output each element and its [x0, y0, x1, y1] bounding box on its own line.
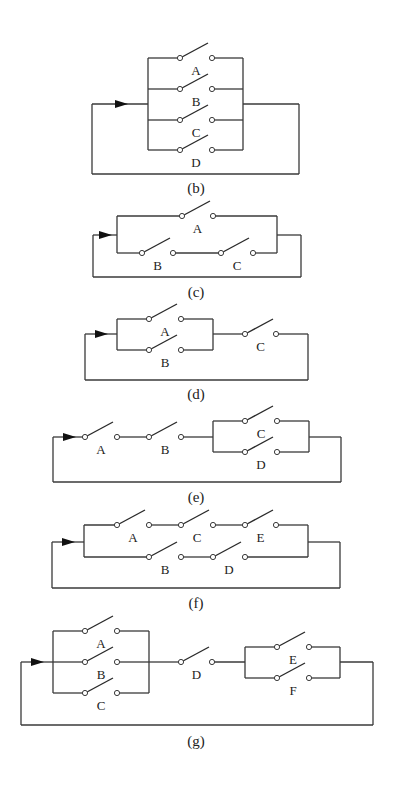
circuit-g: ABCDEF(g) [21, 616, 373, 750]
switch-c: C [242, 319, 278, 354]
terminal-icon [306, 644, 311, 649]
terminal-icon [274, 418, 279, 423]
terminal-icon [178, 434, 183, 439]
switch-blade [247, 319, 273, 333]
switch-label: C [233, 258, 242, 273]
switch-label: D [192, 667, 201, 682]
switch-label: D [191, 155, 200, 170]
switch-label: B [153, 258, 162, 273]
switch-blade [184, 201, 210, 215]
terminal-icon [146, 434, 151, 439]
switch-label: A [96, 442, 106, 457]
terminal-icon [177, 55, 182, 60]
switch-blade [279, 632, 305, 646]
switch-label: A [128, 530, 138, 545]
switch-d: D [177, 135, 214, 170]
switch-a: A [82, 616, 119, 651]
switch-b: B [146, 542, 183, 577]
switch-a: A [177, 43, 214, 78]
switch-blade [151, 304, 177, 318]
circuit-b: ABCD(b) [92, 43, 299, 197]
terminal-icon [274, 644, 279, 649]
terminal-icon [306, 675, 311, 680]
caption-b: (b) [187, 180, 205, 197]
terminal-icon [82, 628, 87, 633]
switch-label: C [257, 426, 266, 441]
switch-blade [151, 542, 177, 556]
switch-label: E [257, 530, 265, 545]
switch-b: B [146, 335, 183, 370]
switch-e: E [242, 510, 278, 545]
switch-a: A [114, 510, 151, 545]
switch-label: B [161, 355, 170, 370]
switch-blade [119, 510, 145, 524]
switch-label: A [193, 221, 203, 236]
switch-label: C [193, 530, 202, 545]
terminal-icon [178, 347, 183, 352]
circuit-e: ABCD(e) [53, 406, 341, 506]
switch-label: A [191, 63, 201, 78]
switch-label: B [97, 667, 106, 682]
circuit-d: ABC(d) [85, 304, 308, 403]
switch-b: B [177, 74, 214, 109]
switch-label: D [256, 457, 265, 472]
terminal-icon [209, 55, 214, 60]
terminal-icon [242, 418, 247, 423]
terminal-icon [274, 449, 279, 454]
switch-label: C [192, 125, 201, 140]
terminal-icon [177, 147, 182, 152]
switch-c: C [242, 406, 279, 441]
switch-blade [182, 43, 208, 57]
terminal-icon [177, 117, 182, 122]
terminal-icon [273, 331, 278, 336]
terminal-icon [273, 522, 278, 527]
switch-blade [87, 422, 113, 436]
switch-label: B [161, 562, 170, 577]
terminal-icon [210, 213, 215, 218]
terminal-icon [82, 434, 87, 439]
terminal-icon [178, 316, 183, 321]
terminal-icon [242, 331, 247, 336]
switch-label: C [97, 698, 106, 713]
terminal-icon [146, 347, 151, 352]
terminal-icon [242, 554, 247, 559]
switch-f: F [274, 663, 311, 698]
terminal-icon [178, 522, 183, 527]
terminal-icon [178, 659, 183, 664]
switch-label: F [289, 683, 296, 698]
terminal-icon [114, 690, 119, 695]
circuit-f: ACEBD(f) [52, 510, 340, 612]
switch-a: A [146, 304, 183, 339]
switch-a: A [179, 201, 215, 236]
switch-c: C [82, 678, 119, 713]
terminal-icon [218, 250, 223, 255]
terminal-icon [209, 86, 214, 91]
current-arrow-icon [99, 231, 112, 239]
switch-d: D [210, 542, 247, 577]
switch-c: C [218, 238, 255, 273]
switch-blade [183, 647, 209, 661]
current-arrow-icon [62, 538, 75, 546]
switch-blade [87, 616, 113, 630]
switch-label: B [192, 94, 201, 109]
terminal-icon [114, 522, 119, 527]
switch-blade [151, 422, 177, 436]
switch-label: A [96, 636, 106, 651]
switch-e: E [274, 632, 311, 667]
terminal-icon [210, 522, 215, 527]
caption-e: (e) [188, 489, 205, 506]
terminal-icon [209, 147, 214, 152]
switch-label: D [224, 562, 233, 577]
switch-label: E [289, 652, 297, 667]
switch-a: A [82, 422, 119, 457]
switch-b: B [146, 422, 183, 457]
circuit-figure: ABCD(b)ABC(c)ABC(d)ABCD(e)ACEBD(f)ABCDEF… [0, 0, 397, 789]
caption-g: (g) [187, 733, 205, 750]
terminal-icon [177, 86, 182, 91]
terminal-icon [250, 250, 255, 255]
caption-d: (d) [187, 386, 205, 403]
terminal-icon [274, 675, 279, 680]
switch-b: B [139, 238, 175, 273]
switch-label: A [160, 324, 170, 339]
switch-blade [183, 510, 209, 524]
